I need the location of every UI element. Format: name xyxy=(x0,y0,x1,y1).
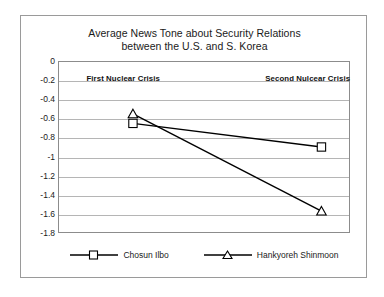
plot-area: First Nuclear Crisis Second Nulcear Cris… xyxy=(58,61,350,233)
data-point-marker xyxy=(129,119,137,127)
y-axis-tick-label: -0.2 xyxy=(21,75,55,85)
chart-legend: Chosun Ilbo Hankyoreh Shinmoon xyxy=(58,244,350,266)
legend-label-chosun-ilbo: Chosun Ilbo xyxy=(123,250,168,260)
y-axis-tick-labels: 0-0.2-0.4-0.6-0.8-1-1.2-1.4-1.6-1.8 xyxy=(21,61,55,233)
y-axis-tick-label: -1.4 xyxy=(21,190,55,200)
y-axis-tick-label: -0.8 xyxy=(21,132,55,142)
legend-marker-open-triangle-icon xyxy=(203,249,253,261)
series-line-chosun-ilbo xyxy=(133,123,322,147)
legend-marker-open-square-icon xyxy=(69,249,119,261)
chart-title-line-2: between the U.S. and S. Korea xyxy=(21,40,368,53)
chart-figure-frame: Average News Tone about Security Relatio… xyxy=(20,15,367,278)
y-axis-tick-label: -1.2 xyxy=(21,171,55,181)
series-lines xyxy=(59,62,349,232)
chart-title-line-1: Average News Tone about Security Relatio… xyxy=(21,27,368,40)
chart-title: Average News Tone about Security Relatio… xyxy=(21,27,368,53)
y-axis-tick-label: -0.4 xyxy=(21,94,55,104)
legend-item-hankyoreh-shinmoon: Hankyoreh Shinmoon xyxy=(203,249,339,261)
data-point-marker xyxy=(317,206,327,215)
y-axis-tick-label: -1.6 xyxy=(21,209,55,219)
y-axis-tick-label: -1.8 xyxy=(21,228,55,238)
y-axis-tick-label: -0.6 xyxy=(21,113,55,123)
y-axis-tick-label: 0 xyxy=(21,56,55,66)
data-point-marker xyxy=(128,109,138,118)
series-line-hankyoreh-shinmoon xyxy=(133,114,322,211)
legend-item-chosun-ilbo: Chosun Ilbo xyxy=(69,249,168,261)
y-axis-tick-label: -1 xyxy=(21,152,55,162)
data-point-marker xyxy=(317,143,325,151)
legend-label-hankyoreh-shinmoon: Hankyoreh Shinmoon xyxy=(257,250,339,260)
